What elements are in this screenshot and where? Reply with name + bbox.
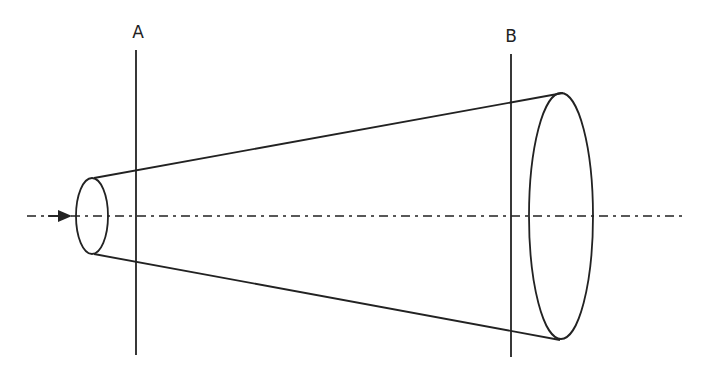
label-b: B xyxy=(505,26,517,46)
small-end-ellipse xyxy=(76,178,108,254)
cone-top-edge xyxy=(94,93,563,178)
flow-arrow-icon xyxy=(48,210,72,222)
cone-diagram: A B xyxy=(0,0,706,375)
cone-bottom-edge xyxy=(94,254,560,340)
label-a: A xyxy=(132,22,144,42)
